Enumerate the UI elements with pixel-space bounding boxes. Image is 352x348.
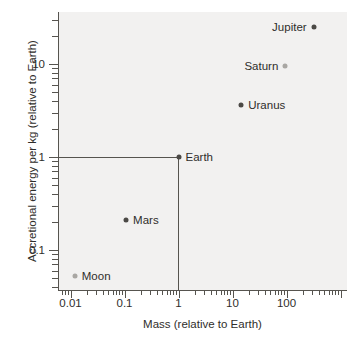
- y-tick: [49, 64, 58, 65]
- x-tick: [227, 291, 228, 295]
- x-tick: [157, 291, 158, 295]
- y-tick: [52, 178, 58, 179]
- x-tick-label: 0.1: [117, 297, 133, 309]
- y-axis-tick-labels: 0.1110: [0, 0, 45, 348]
- x-tick: [173, 291, 174, 295]
- data-point-label-uranus: Uranus: [248, 99, 285, 111]
- x-tick: [278, 291, 279, 295]
- data-point-mars: [124, 218, 129, 223]
- x-tick: [211, 291, 212, 295]
- data-point-earth: [176, 155, 181, 160]
- x-tick: [103, 291, 104, 295]
- data-point-jupiter: [311, 24, 316, 29]
- x-tick: [176, 291, 177, 295]
- reference-line-vertical: [178, 157, 179, 290]
- y-tick: [52, 166, 58, 167]
- x-tick: [324, 291, 325, 295]
- y-tick-label: 1: [39, 151, 45, 163]
- x-tick: [87, 291, 88, 295]
- x-tick: [122, 291, 123, 295]
- x-tick: [162, 291, 163, 295]
- x-tick: [281, 291, 282, 295]
- x-tick-label: 0.01: [59, 297, 81, 309]
- y-axis-title: Accretional energy per kg (relative to E…: [26, 14, 38, 289]
- y-tick: [52, 78, 58, 79]
- x-tick: [249, 291, 250, 295]
- x-tick: [341, 291, 342, 298]
- y-tick: [52, 278, 58, 279]
- data-point-label-moon: Moon: [82, 270, 111, 282]
- y-tick: [52, 68, 58, 69]
- y-tick: [52, 254, 58, 255]
- y-tick: [52, 264, 58, 265]
- x-tick-label: 1: [175, 297, 181, 309]
- data-point-label-jupiter: Jupiter: [272, 21, 307, 33]
- y-tick: [52, 85, 58, 86]
- reference-line-horizontal: [59, 157, 179, 158]
- x-tick: [335, 291, 336, 295]
- x-tick: [216, 291, 217, 295]
- y-tick: [52, 161, 58, 162]
- x-tick: [113, 291, 114, 295]
- y-tick: [52, 101, 58, 102]
- x-axis-title: Mass (relative to Earth): [58, 318, 347, 330]
- x-tick: [170, 291, 171, 295]
- y-tick: [52, 36, 58, 37]
- x-tick: [319, 291, 320, 295]
- y-tick: [52, 92, 58, 93]
- data-point-moon: [72, 274, 77, 279]
- x-tick: [68, 291, 69, 295]
- x-tick: [167, 291, 168, 295]
- x-tick: [338, 291, 339, 295]
- data-point-label-earth: Earth: [186, 151, 214, 163]
- x-tick-label: 10: [226, 297, 239, 309]
- y-tick: [49, 250, 58, 251]
- x-tick: [230, 291, 231, 295]
- x-tick: [116, 291, 117, 295]
- scatter-plot-figure: Appendix The Solar System 0.010.1110100 …: [0, 0, 352, 348]
- y-tick: [52, 194, 58, 195]
- data-point-saturn: [283, 64, 288, 69]
- y-tick: [52, 271, 58, 272]
- y-tick: [52, 287, 58, 288]
- x-tick: [96, 291, 97, 295]
- x-tick: [303, 291, 304, 295]
- x-tick: [265, 291, 266, 295]
- y-tick: [52, 73, 58, 74]
- x-tick: [62, 291, 63, 295]
- y-tick: [52, 20, 58, 21]
- y-tick: [52, 129, 58, 130]
- y-tick: [49, 157, 58, 158]
- x-tick: [332, 291, 333, 295]
- y-axis-line: [58, 12, 59, 291]
- x-tick: [221, 291, 222, 295]
- x-tick: [108, 291, 109, 295]
- y-tick: [52, 113, 58, 114]
- x-tick: [329, 291, 330, 295]
- data-point-uranus: [239, 103, 244, 108]
- x-tick: [150, 291, 151, 295]
- data-point-label-mars: Mars: [133, 214, 159, 226]
- x-tick-label: 100: [277, 297, 296, 309]
- y-tick: [52, 222, 58, 223]
- y-tick: [52, 259, 58, 260]
- x-tick: [204, 291, 205, 295]
- x-tick: [65, 291, 66, 295]
- x-tick: [119, 291, 120, 295]
- y-tick: [52, 185, 58, 186]
- x-tick: [275, 291, 276, 295]
- x-tick: [312, 291, 313, 295]
- y-tick: [52, 206, 58, 207]
- x-tick: [195, 291, 196, 295]
- x-tick: [284, 291, 285, 295]
- x-tick: [141, 291, 142, 295]
- data-point-label-saturn: Saturn: [244, 60, 278, 72]
- y-tick: [52, 171, 58, 172]
- x-tick: [258, 291, 259, 295]
- x-tick: [224, 291, 225, 295]
- x-tick: [270, 291, 271, 295]
